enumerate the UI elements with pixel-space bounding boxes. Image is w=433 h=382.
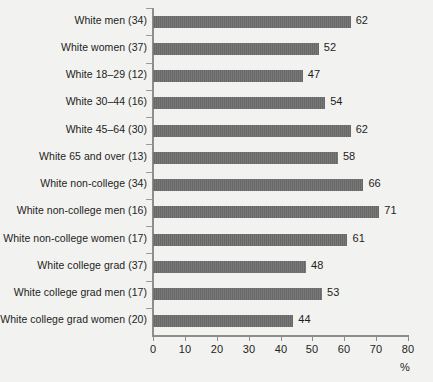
y-axis-tick [146, 281, 153, 282]
y-axis-tick [146, 35, 153, 36]
x-axis-tick [153, 336, 154, 341]
bar [153, 288, 322, 300]
x-axis-tick-label: 80 [388, 343, 428, 355]
category-label: White college grad women (20) [0, 313, 147, 325]
y-axis-tick [146, 63, 153, 64]
bar [153, 261, 306, 273]
y-axis-tick [146, 253, 153, 254]
y-axis-tick [146, 117, 153, 118]
x-axis-tick [408, 336, 409, 341]
bar [153, 16, 351, 28]
category-label: White college grad men (17) [0, 286, 147, 298]
y-axis-tick [146, 226, 153, 227]
category-label: White non-college men (16) [0, 204, 147, 216]
category-label: White 18–29 (12) [0, 68, 147, 80]
bar-value-label: 53 [327, 286, 339, 298]
bar [153, 315, 293, 327]
y-axis-tick [146, 308, 153, 309]
bar-value-label: 48 [311, 259, 323, 271]
x-axis-tick [217, 336, 218, 341]
bar-value-label: 58 [343, 150, 355, 162]
category-label: White 45–64 (30) [0, 123, 147, 135]
bar [153, 125, 351, 137]
x-axis-tick [185, 336, 186, 341]
category-label: White non-college women (17) [0, 232, 147, 244]
bar-chart: White men (34)62White women (37)52White … [0, 0, 433, 382]
category-label: White 65 and over (13) [0, 150, 147, 162]
bar-value-label: 71 [384, 204, 396, 216]
x-axis-unit-label: % [400, 361, 410, 373]
bar [153, 206, 379, 218]
category-label: White college grad (37) [0, 259, 147, 271]
y-axis-tick [146, 90, 153, 91]
x-axis-tick [249, 336, 250, 341]
x-axis-tick [281, 336, 282, 341]
category-label: White 30–44 (16) [0, 95, 147, 107]
category-label: White men (34) [0, 14, 147, 26]
bar-value-label: 52 [324, 41, 336, 53]
y-axis-tick [146, 8, 153, 9]
bar-value-label: 44 [298, 313, 310, 325]
bar [153, 234, 347, 246]
x-axis-tick [344, 336, 345, 341]
category-label: White women (37) [0, 41, 147, 53]
x-axis-tick [376, 336, 377, 341]
bar [153, 43, 319, 55]
y-axis-tick [146, 144, 153, 145]
bar [153, 97, 325, 109]
y-axis-tick [146, 199, 153, 200]
bar [153, 152, 338, 164]
bar-value-label: 54 [330, 95, 342, 107]
bar [153, 179, 363, 191]
bar-value-label: 62 [356, 14, 368, 26]
bar-value-label: 61 [352, 232, 364, 244]
bar-value-label: 66 [368, 177, 380, 189]
x-axis-tick [312, 336, 313, 341]
category-label: White non-college (34) [0, 177, 147, 189]
bar-value-label: 47 [308, 68, 320, 80]
bar [153, 70, 303, 82]
y-axis-tick [146, 172, 153, 173]
bar-value-label: 62 [356, 123, 368, 135]
